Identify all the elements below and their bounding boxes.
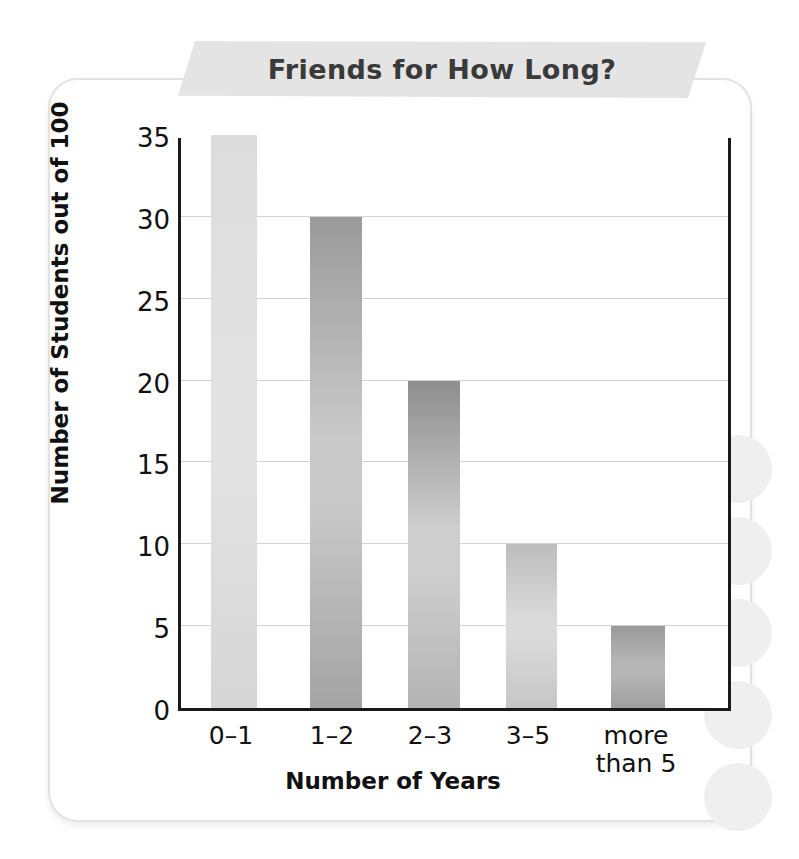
x-axis-tick-label-line: 1–2 [284,722,380,750]
x-axis-tick-label-line: 3–5 [480,722,576,750]
x-axis-title: Number of Years [178,768,608,794]
bar-chart: 05101520253035 Number of Students out of… [0,0,799,859]
y-axis-tick-label: 15 [108,450,170,480]
x-axis-tick-label: 3–5 [480,722,576,750]
y-axis-tick-label: 30 [108,205,170,235]
y-axis-tick-label: 35 [108,123,170,153]
y-axis-tick-label: 20 [108,369,170,399]
gridline [181,216,728,217]
bar [408,381,460,708]
x-axis-tick-label: 0–1 [185,722,277,750]
x-axis-tick-label-line: 2–3 [382,722,478,750]
gridline [181,298,728,299]
y-axis-tick-label: 5 [108,614,170,644]
bar [310,217,362,708]
bar [611,626,665,708]
chart-title: Friends for How Long? [178,41,706,98]
bar [506,544,557,708]
y-axis-tick-label: 0 [108,696,170,726]
x-axis-tick-label-line: 0–1 [185,722,277,750]
bar [211,135,257,708]
y-axis-tick-label: 10 [108,532,170,562]
x-axis-tick-label-line: more [586,722,686,750]
y-axis-tick-labels: 05101520253035 [108,138,170,711]
plot-frame [178,138,731,711]
x-axis-tick-label: 2–3 [382,722,478,750]
x-axis-tick-label: 1–2 [284,722,380,750]
y-axis-title: Number of Students out of 100 [47,68,73,538]
y-axis-tick-label: 25 [108,287,170,317]
